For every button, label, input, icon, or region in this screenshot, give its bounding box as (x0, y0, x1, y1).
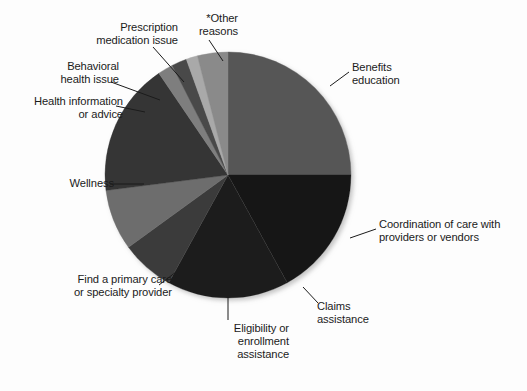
pie-label-wellness: Wellness (38, 177, 114, 190)
leader-line-coordination (350, 229, 376, 238)
pie-label-benefits-education: Benefits education (352, 61, 472, 87)
pie-label-behavioral-health: Behavioral health issue (14, 60, 119, 86)
pie-slice[interactable] (228, 52, 351, 175)
pie-label-eligibility-enrollment: Eligibility or enrollment assistance (193, 322, 289, 362)
pie-slice-group (105, 52, 351, 298)
pie-label-prescription-medication: Prescription medication issue (54, 21, 178, 47)
pie-chart-page: Benefits education Coordination of care … (0, 0, 527, 391)
pie-label-health-information: Health information or advice (5, 95, 123, 121)
pie-label-claims-assistance: Claims assistance (317, 300, 417, 326)
pie-chart: Benefits education Coordination of care … (0, 0, 527, 391)
pie-label-other-reasons: *Other reasons (176, 12, 238, 38)
leader-line-claims (303, 287, 318, 303)
leader-line-benefits (330, 72, 349, 86)
pie-label-find-provider: Find a primary care or specialty provide… (20, 273, 172, 299)
pie-label-coordination-of-care: Coordination of care with providers or v… (379, 218, 527, 244)
